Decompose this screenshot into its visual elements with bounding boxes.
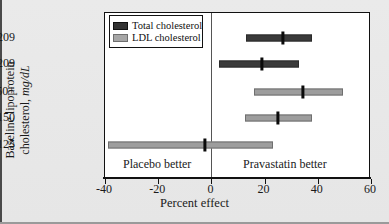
y-axis-title-units: mg/dL (18, 65, 32, 96)
point-estimate-marker (203, 139, 206, 152)
x-axis-line (103, 177, 371, 179)
point-estimate-marker (302, 86, 305, 99)
x-axis-tick-label: 20 (258, 182, 270, 197)
legend-label: Total cholesterol (132, 20, 202, 31)
page-bottom-border (0, 222, 389, 224)
y-axis-category-label: <125 (0, 137, 15, 152)
zero-reference-line (211, 13, 212, 179)
legend-entry: Total cholesterol (113, 20, 199, 31)
plot-annotation: Placebo better (123, 157, 191, 172)
figure-panel: Baseline lipoprotein cholesterol, mg/dL … (0, 0, 389, 224)
x-axis-tick-label: -20 (149, 182, 165, 197)
confidence-interval-bar (246, 35, 313, 42)
legend-entry: LDL cholesterol (113, 32, 199, 43)
confidence-interval-bar (254, 89, 343, 96)
legend-swatch-icon (113, 34, 128, 42)
y-axis-category-label: <209 (0, 56, 15, 71)
plot-annotation: Pravastatin better (243, 157, 327, 172)
x-axis-tick-label: 0 (207, 182, 213, 197)
y-axis-category-label: >209 (0, 30, 15, 45)
x-axis-tick-label: 40 (311, 182, 323, 197)
y-axis-title-line2: cholesterol, (18, 99, 32, 155)
point-estimate-marker (260, 58, 263, 71)
confidence-interval-bar (219, 61, 299, 68)
point-estimate-marker (276, 112, 279, 125)
x-axis-tick-label: -40 (96, 182, 112, 197)
x-axis-tick-label: 60 (364, 182, 376, 197)
point-estimate-marker (282, 32, 285, 45)
y-axis-category-label: 125–150 (0, 110, 15, 125)
legend-swatch-icon (113, 22, 128, 30)
y-axis-category-label: 150+ (0, 84, 15, 99)
chart-legend: Total cholesterolLDL cholesterol (109, 15, 203, 48)
confidence-interval-bar (108, 142, 273, 149)
legend-label: LDL cholesterol (132, 32, 201, 43)
plot-area: Total cholesterolLDL cholesterol (104, 12, 370, 178)
x-axis-title: Percent effect (0, 196, 389, 211)
